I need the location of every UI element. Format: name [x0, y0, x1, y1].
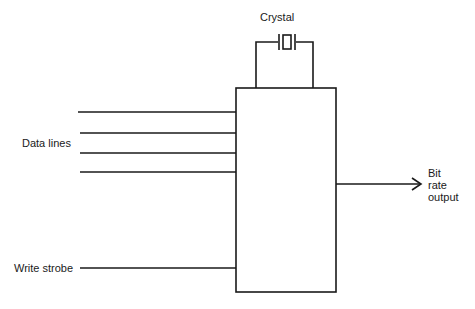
- output-label-output: output: [428, 191, 459, 204]
- generator-block: [236, 88, 336, 292]
- crystal-label: Crystal: [260, 11, 294, 24]
- crystal-left-wire: [256, 42, 278, 88]
- data-lines-label: Data lines: [22, 137, 71, 150]
- crystal-icon: [279, 34, 295, 50]
- crystal-right-wire: [296, 42, 313, 88]
- write-strobe-label: Write strobe: [14, 262, 73, 275]
